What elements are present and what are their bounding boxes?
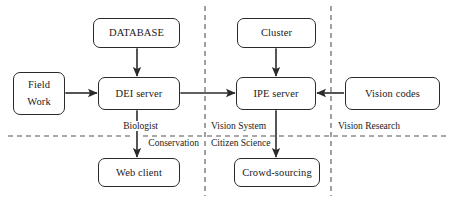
node-crowd-sourcing-label: Crowd-sourcing xyxy=(235,166,319,179)
node-field-work[interactable]: Field Work xyxy=(13,72,65,115)
node-database-label: DATABASE xyxy=(94,26,179,39)
node-ipe-server-label: IPE server xyxy=(237,87,315,100)
node-vision-codes[interactable]: Vision codes xyxy=(345,77,440,110)
region-label-citizen-science: Citizen Science xyxy=(209,138,272,148)
node-database[interactable]: DATABASE xyxy=(93,18,180,48)
node-crowd-sourcing[interactable]: Crowd-sourcing xyxy=(234,158,320,187)
node-ipe-server[interactable]: IPE server xyxy=(236,77,316,110)
node-dei-server-label: DEI server xyxy=(99,87,179,100)
diagram-canvas: DATABASE Cluster Field Work DEI server I… xyxy=(0,0,452,202)
node-field-work-label-line1: Field xyxy=(14,77,64,93)
node-cluster-label: Cluster xyxy=(238,26,315,39)
region-label-vision-research: Vision Research xyxy=(336,121,402,131)
region-label-vision-system: Vision System xyxy=(209,121,268,131)
region-label-biologist: Biologist xyxy=(121,121,160,131)
region-label-conservation: Conservation xyxy=(146,138,201,148)
node-web-client-label: Web client xyxy=(99,166,179,179)
node-dei-server[interactable]: DEI server xyxy=(98,77,180,110)
node-vision-codes-label: Vision codes xyxy=(346,87,439,100)
node-cluster[interactable]: Cluster xyxy=(237,18,316,48)
node-field-work-label: Field Work xyxy=(14,77,64,110)
node-field-work-label-line2: Work xyxy=(14,94,64,110)
node-web-client[interactable]: Web client xyxy=(98,158,180,187)
